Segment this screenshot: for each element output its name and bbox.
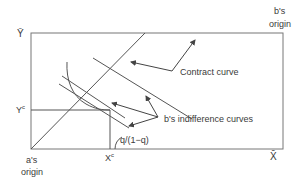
edgeworth-box-frame — [31, 33, 283, 149]
yc-label: Yc — [16, 105, 25, 115]
y-bar-label: Ȳ — [17, 29, 24, 39]
b-indifference-line-lower — [59, 84, 129, 128]
xc-label: Xc — [105, 153, 114, 163]
x-bar-label: X̄ — [270, 152, 277, 162]
b-indifference-label: b's indifference curves — [164, 114, 253, 124]
contract-curve-line — [31, 33, 145, 149]
b-origin-label-2: origin — [269, 19, 291, 29]
yc-label-sup: c — [22, 104, 25, 110]
b-origin-label-1: b's — [274, 6, 285, 16]
a-origin-label-1: a's — [26, 155, 37, 165]
edgeworth-box-diagram — [0, 0, 303, 187]
a-origin-label-2: origin — [21, 167, 43, 177]
xc-label-sup: c — [111, 152, 114, 158]
b-indifference-line-middle — [62, 76, 125, 118]
contract-arrow-1 — [131, 62, 172, 71]
slope-label: q/(1−q) — [120, 135, 149, 145]
indiff-arrow-3 — [129, 117, 158, 126]
contract-curve-label: Contract curve — [180, 67, 239, 77]
